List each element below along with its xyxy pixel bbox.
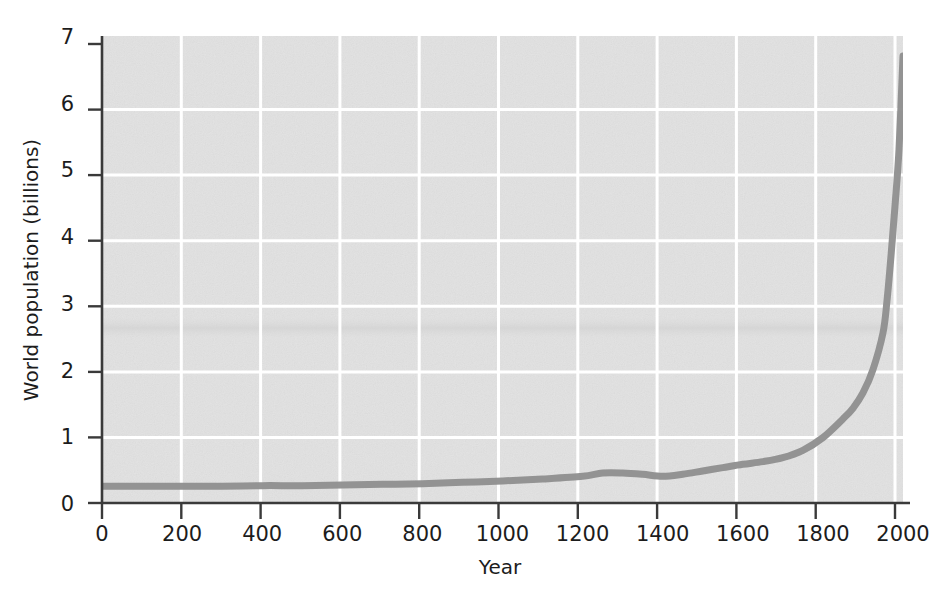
x-tick-label: 400 bbox=[242, 522, 282, 546]
y-tick-label: 5 bbox=[61, 158, 74, 182]
y-tick-label: 7 bbox=[61, 25, 74, 49]
x-tick-label: 1400 bbox=[636, 522, 689, 546]
x-tick-label: 800 bbox=[402, 522, 442, 546]
y-tick-label: 0 bbox=[61, 492, 74, 516]
y-axis-title: World population (billions) bbox=[19, 139, 43, 401]
y-tick-label: 6 bbox=[61, 92, 74, 116]
y-tick-label: 3 bbox=[61, 292, 74, 316]
scan-artifact-band bbox=[102, 318, 903, 338]
y-tick-label: 4 bbox=[61, 225, 74, 249]
x-axis-ticks bbox=[102, 503, 895, 519]
x-tick-label: 2000 bbox=[876, 522, 929, 546]
y-tick-label: 2 bbox=[61, 359, 74, 383]
x-tick-label: 1000 bbox=[476, 522, 529, 546]
x-tick-label: 1600 bbox=[716, 522, 769, 546]
plot-area-background bbox=[102, 36, 903, 503]
world-population-line-chart: 01234567 0200400600800100012001400160018… bbox=[0, 0, 939, 603]
chart-figure: 01234567 0200400600800100012001400160018… bbox=[0, 0, 939, 603]
x-tick-label: 1800 bbox=[796, 522, 849, 546]
y-axis-tick-labels: 01234567 bbox=[61, 25, 74, 516]
x-tick-label: 200 bbox=[162, 522, 202, 546]
y-tick-label: 1 bbox=[61, 425, 74, 449]
x-tick-label: 0 bbox=[95, 522, 108, 546]
x-tick-label: 1200 bbox=[556, 522, 609, 546]
x-tick-label: 600 bbox=[322, 522, 362, 546]
x-axis-title: Year bbox=[478, 555, 522, 579]
x-axis-tick-labels: 0200400600800100012001400160018002000 bbox=[95, 522, 929, 546]
y-axis-ticks bbox=[88, 44, 102, 503]
